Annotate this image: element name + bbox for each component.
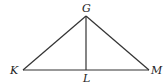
label-g: G <box>82 2 91 15</box>
label-m: M <box>150 64 163 77</box>
triangle-diagram: G K L M <box>0 0 168 84</box>
segment-gm <box>86 16 149 70</box>
label-k: K <box>9 64 19 77</box>
segment-gk <box>23 16 86 70</box>
label-l: L <box>82 72 90 84</box>
